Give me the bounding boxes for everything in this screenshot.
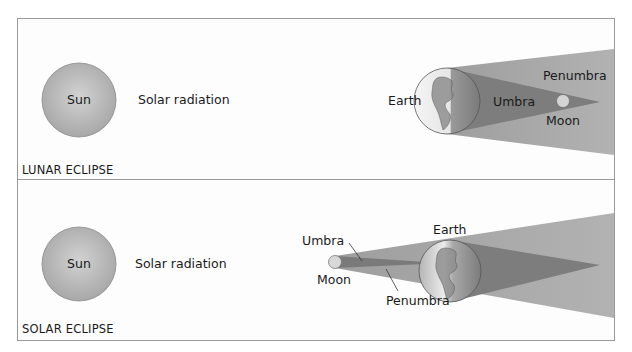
lunar-eclipse-figure: Sun Solar radiation Earth Umbra Penumbra… [22,49,614,177]
moon-icon [329,256,342,269]
eclipse-diagram: Sun Solar radiation Earth Umbra Penumbra… [0,0,632,352]
lunar-eclipse-caption: LUNAR ECLIPSE [22,163,114,177]
solar-moon-label: Moon [317,272,351,287]
solar-penumbra-label: Penumbra [386,293,450,308]
solar-eclipse-caption: SOLAR ECLIPSE [22,322,114,336]
lunar-earth-label: Earth [388,93,422,108]
solar-umbra-label: Umbra [302,233,344,248]
moon-icon [557,95,570,108]
lunar-penumbra-label: Penumbra [543,68,607,83]
lunar-moon-label: Moon [546,113,580,128]
solar-eclipse-figure: Sun Solar radiation Earth Umbra Penumbra… [22,213,614,336]
solar-radiation-label: Solar radiation [135,256,227,271]
lunar-sun-label: Sun [67,92,91,107]
solar-sun-label: Sun [67,256,91,271]
lunar-umbra-label: Umbra [493,94,535,109]
lunar-radiation-label: Solar radiation [138,92,230,107]
solar-earth-label: Earth [433,222,467,237]
earth-icon [414,68,480,134]
